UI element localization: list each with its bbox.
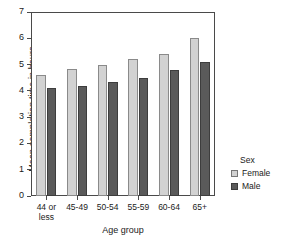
- y-tick-label: 0: [4, 190, 24, 200]
- y-tick-label: 3: [4, 111, 24, 121]
- bar-male-4: [170, 70, 180, 196]
- x-tick-mark: [46, 196, 47, 200]
- legend-swatch-male: [231, 183, 238, 190]
- bar-male-0: [47, 88, 57, 196]
- bar-male-1: [78, 86, 88, 196]
- bar-female-2: [98, 65, 108, 196]
- x-tick-mark: [200, 196, 201, 200]
- y-tick-label: 5: [4, 59, 24, 69]
- x-tick-mark: [108, 196, 109, 200]
- legend-label-male: Male: [242, 181, 260, 191]
- x-tick-mark: [138, 196, 139, 200]
- legend-label-female: Female: [242, 168, 270, 178]
- y-tick-label: 6: [4, 32, 24, 42]
- legend-title: Sex: [231, 155, 281, 165]
- x-axis-title: Age group: [31, 225, 215, 235]
- bar-female-5: [190, 38, 200, 196]
- legend-swatch-female: [231, 170, 238, 177]
- legend-item-male: Male: [231, 181, 281, 191]
- x-tick-mark: [169, 196, 170, 200]
- x-tick-label: 65+: [178, 202, 222, 212]
- legend-items: FemaleMale: [231, 168, 281, 191]
- bar-female-3: [128, 59, 138, 196]
- y-tick-label: 1: [4, 164, 24, 174]
- bar-female-0: [36, 75, 46, 196]
- legend: Sex FemaleMale: [231, 155, 281, 194]
- bar-male-5: [200, 62, 210, 196]
- y-tick-label: 7: [4, 6, 24, 16]
- bar-female-4: [159, 54, 169, 196]
- legend-item-female: Female: [231, 168, 281, 178]
- bars-layer: [31, 12, 215, 196]
- bar-male-3: [139, 78, 149, 196]
- bar-male-2: [108, 82, 118, 196]
- x-tick-mark: [77, 196, 78, 200]
- y-tick-label: 4: [4, 85, 24, 95]
- bar-chart: Mean completion time in hours 01234567 4…: [0, 0, 282, 246]
- bar-female-1: [67, 69, 77, 196]
- y-tick-label: 2: [4, 137, 24, 147]
